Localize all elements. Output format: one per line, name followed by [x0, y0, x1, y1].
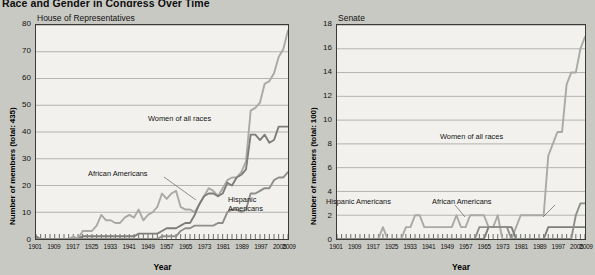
y-tick-label: 6	[310, 164, 332, 172]
series-line	[337, 203, 585, 239]
house-label-hispanic-americans-line2: Americans	[228, 205, 263, 214]
house-chart-caption: House of Representatives	[37, 13, 135, 23]
y-tick-label: 2	[310, 212, 332, 220]
y-tick-label: 12	[310, 92, 332, 100]
y-tick-label: 30	[9, 155, 31, 163]
house-y-axis-title: Number of members (total: 435)	[8, 108, 17, 225]
y-tick-label: 18	[310, 20, 332, 28]
senate-label-hispanic-americans: Hispanic Americans	[326, 198, 391, 207]
house-label-women: Women of all races	[148, 115, 211, 124]
senate-label-african-americans: African Americans	[432, 198, 492, 207]
panel-senate: Senate Number of members (total: 100) 02…	[300, 0, 595, 275]
y-tick-label: 14	[310, 68, 332, 76]
y-tick-label: 4	[310, 188, 332, 196]
y-tick-label: 20	[9, 182, 31, 190]
y-tick-label: 60	[9, 74, 31, 82]
house-x-axis-title: Year	[35, 262, 290, 272]
y-tick-label: 70	[9, 47, 31, 55]
x-tick-label: 2009	[571, 243, 595, 250]
y-tick-label: 10	[9, 209, 31, 217]
y-tick-label: 16	[310, 44, 332, 52]
y-tick-label: 8	[310, 140, 332, 148]
senate-label-women: Women of all races	[440, 133, 503, 142]
y-tick-label: 10	[310, 116, 332, 124]
panel-house: House of Representatives Number of membe…	[0, 0, 300, 275]
house-label-african-americans: African Americans	[88, 170, 148, 179]
senate-chart-caption: Senate	[338, 13, 365, 23]
series-line	[36, 127, 288, 239]
senate-x-axis-title: Year	[336, 262, 586, 272]
y-tick-label: 40	[9, 128, 31, 136]
y-tick-label: 80	[9, 20, 31, 28]
y-tick-label: 50	[9, 101, 31, 109]
